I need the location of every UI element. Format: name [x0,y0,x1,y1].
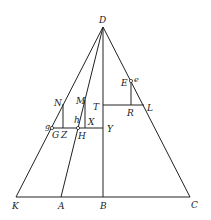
point-e-marker [129,79,132,82]
label-A: A [57,201,65,211]
segment-DK [16,27,103,197]
label-H: H [77,131,86,141]
label-D: D [98,15,106,25]
label-h: h [74,115,80,125]
point-h-marker [76,126,79,129]
label-e: e [134,75,139,84]
label-L: L [146,103,153,113]
label-X: X [87,117,95,127]
label-M: M [75,96,86,106]
segment-DA [61,27,103,197]
label-K: K [11,201,20,211]
label-Z: Z [60,130,68,140]
label-G: G [52,130,59,140]
label-E: E [120,78,128,88]
label-g: g [45,122,50,131]
label-C: C [191,200,198,210]
label-Y: Y [107,124,114,134]
diagram-canvas: D N M T E e L R g G Z h H X Y K A B C [0,0,211,220]
label-N: N [53,98,63,108]
label-B: B [99,201,107,211]
label-T: T [93,102,100,112]
geometry-figure: D N M T E e L R g G Z h H X Y K A B C [0,0,211,220]
label-R: R [126,108,134,118]
